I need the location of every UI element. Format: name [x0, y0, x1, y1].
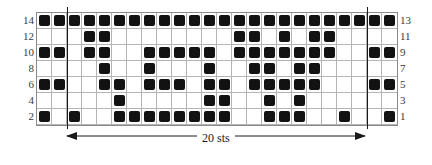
chart-cell-filled[interactable] — [172, 109, 187, 125]
chart-cell-filled[interactable] — [307, 61, 322, 77]
chart-cell-empty[interactable] — [97, 93, 112, 109]
chart-cell-filled[interactable] — [157, 13, 172, 29]
chart-cell-filled[interactable] — [52, 45, 67, 61]
chart-cell-empty[interactable] — [82, 61, 97, 77]
chart-cell-filled[interactable] — [202, 93, 217, 109]
chart-cell-empty[interactable] — [217, 61, 232, 77]
chart-cell-empty[interactable] — [82, 93, 97, 109]
chart-cell-filled[interactable] — [172, 13, 187, 29]
chart-cell-empty[interactable] — [37, 61, 52, 77]
chart-cell-filled[interactable] — [37, 77, 52, 93]
chart-cell-empty[interactable] — [172, 29, 187, 45]
chart-cell-filled[interactable] — [37, 45, 52, 61]
chart-cell-filled[interactable] — [292, 93, 307, 109]
chart-cell-empty[interactable] — [247, 109, 262, 125]
chart-cell-empty[interactable] — [142, 29, 157, 45]
chart-cell-filled[interactable] — [247, 45, 262, 61]
chart-cell-filled[interactable] — [277, 45, 292, 61]
chart-cell-filled[interactable] — [172, 45, 187, 61]
chart-cell-empty[interactable] — [127, 61, 142, 77]
chart-cell-filled[interactable] — [82, 13, 97, 29]
chart-cell-filled[interactable] — [232, 45, 247, 61]
chart-cell-filled[interactable] — [307, 13, 322, 29]
chart-cell-empty[interactable] — [142, 93, 157, 109]
chart-cell-filled[interactable] — [292, 61, 307, 77]
chart-cell-empty[interactable] — [187, 61, 202, 77]
chart-cell-empty[interactable] — [52, 61, 67, 77]
chart-cell-empty[interactable] — [382, 93, 397, 109]
chart-cell-filled[interactable] — [307, 77, 322, 93]
chart-cell-filled[interactable] — [232, 29, 247, 45]
chart-cell-filled[interactable] — [322, 45, 337, 61]
chart-cell-filled[interactable] — [97, 77, 112, 93]
chart-cell-filled[interactable] — [292, 13, 307, 29]
chart-cell-filled[interactable] — [142, 109, 157, 125]
chart-cell-filled[interactable] — [52, 77, 67, 93]
chart-cell-empty[interactable] — [112, 29, 127, 45]
chart-cell-filled[interactable] — [187, 45, 202, 61]
chart-cell-empty[interactable] — [172, 61, 187, 77]
chart-cell-empty[interactable] — [322, 77, 337, 93]
chart-cell-empty[interactable] — [67, 45, 82, 61]
chart-cell-empty[interactable] — [262, 29, 277, 45]
chart-cell-empty[interactable] — [337, 29, 352, 45]
chart-cell-empty[interactable] — [187, 93, 202, 109]
chart-cell-filled[interactable] — [112, 109, 127, 125]
chart-cell-filled[interactable] — [67, 13, 82, 29]
chart-cell-empty[interactable] — [127, 45, 142, 61]
chart-cell-empty[interactable] — [367, 29, 382, 45]
chart-cell-filled[interactable] — [277, 109, 292, 125]
chart-cell-filled[interactable] — [382, 45, 397, 61]
chart-cell-empty[interactable] — [127, 77, 142, 93]
chart-cell-empty[interactable] — [172, 93, 187, 109]
chart-cell-filled[interactable] — [37, 109, 52, 125]
chart-cell-filled[interactable] — [52, 13, 67, 29]
chart-cell-filled[interactable] — [247, 13, 262, 29]
chart-cell-filled[interactable] — [247, 29, 262, 45]
chart-cell-filled[interactable] — [337, 109, 352, 125]
chart-cell-empty[interactable] — [67, 61, 82, 77]
chart-cell-filled[interactable] — [187, 13, 202, 29]
chart-cell-empty[interactable] — [232, 77, 247, 93]
chart-cell-empty[interactable] — [157, 93, 172, 109]
chart-cell-filled[interactable] — [142, 13, 157, 29]
chart-cell-empty[interactable] — [37, 93, 52, 109]
chart-cell-empty[interactable] — [367, 93, 382, 109]
chart-cell-filled[interactable] — [202, 61, 217, 77]
chart-cell-filled[interactable] — [262, 45, 277, 61]
chart-cell-empty[interactable] — [127, 93, 142, 109]
chart-cell-filled[interactable] — [202, 77, 217, 93]
chart-cell-filled[interactable] — [262, 93, 277, 109]
chart-cell-empty[interactable] — [127, 29, 142, 45]
chart-cell-filled[interactable] — [157, 45, 172, 61]
chart-cell-empty[interactable] — [82, 77, 97, 93]
chart-cell-filled[interactable] — [292, 45, 307, 61]
chart-cell-empty[interactable] — [112, 45, 127, 61]
chart-cell-empty[interactable] — [97, 109, 112, 125]
chart-cell-filled[interactable] — [172, 77, 187, 93]
chart-cell-filled[interactable] — [82, 29, 97, 45]
chart-cell-filled[interactable] — [247, 77, 262, 93]
chart-cell-empty[interactable] — [277, 93, 292, 109]
chart-cell-filled[interactable] — [262, 77, 277, 93]
chart-cell-empty[interactable] — [382, 61, 397, 77]
chart-cell-empty[interactable] — [157, 29, 172, 45]
chart-cell-empty[interactable] — [322, 61, 337, 77]
chart-cell-filled[interactable] — [97, 13, 112, 29]
chart-cell-filled[interactable] — [202, 45, 217, 61]
chart-cell-empty[interactable] — [217, 29, 232, 45]
chart-cell-filled[interactable] — [127, 13, 142, 29]
chart-cell-empty[interactable] — [187, 77, 202, 93]
chart-cell-filled[interactable] — [367, 13, 382, 29]
chart-cell-empty[interactable] — [52, 93, 67, 109]
chart-grid[interactable] — [36, 12, 398, 126]
chart-cell-empty[interactable] — [367, 61, 382, 77]
chart-cell-empty[interactable] — [37, 29, 52, 45]
chart-cell-empty[interactable] — [157, 61, 172, 77]
chart-cell-empty[interactable] — [247, 93, 262, 109]
chart-cell-filled[interactable] — [112, 77, 127, 93]
chart-cell-empty[interactable] — [292, 29, 307, 45]
chart-cell-filled[interactable] — [382, 77, 397, 93]
chart-cell-filled[interactable] — [382, 13, 397, 29]
chart-cell-empty[interactable] — [367, 109, 382, 125]
